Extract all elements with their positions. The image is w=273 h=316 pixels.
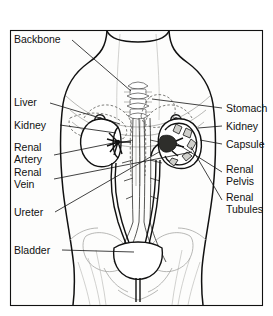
label-renal-tubules-line1: Renal [226,191,253,203]
label-kidney-right: Kidney [226,120,259,132]
label-capsule: Capsule [226,138,265,150]
label-ureter: Ureter [14,206,44,218]
label-liver: Liver [14,96,37,108]
label-renal-tubules-line2: Tubules [226,203,263,215]
label-renal-pelvis-line1: Renal [226,163,253,175]
label-kidney-left: Kidney [14,119,47,131]
label-renal-artery-line1: Renal [14,141,41,153]
label-bladder: Bladder [14,244,51,256]
label-renal-vein-line2: Vein [14,178,35,190]
label-renal-artery-line2: Artery [14,153,43,165]
label-renal-vein-line1: Renal [14,166,41,178]
label-backbone: Backbone [14,33,61,45]
anatomy-diagram: Backbone Liver Kidney Renal Artery Renal… [0,0,273,316]
label-stomach: Stomach [226,102,268,114]
label-renal-pelvis-line2: Pelvis [226,175,254,187]
